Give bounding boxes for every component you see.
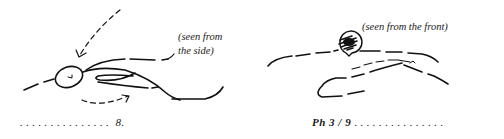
caption-side-view: (seen from the side) — [178, 30, 248, 58]
leader-dots: ............... — [354, 116, 446, 128]
caption-front-view: (seen from the front) — [362, 20, 448, 34]
leader-dots: ............... — [20, 116, 112, 128]
head-circle — [339, 31, 362, 56]
downward-arrow-icon — [80, 10, 120, 55]
figure-number: Ph 3 / 9 — [312, 116, 351, 128]
figure-number: 8. — [116, 116, 125, 128]
figure-front-view: (seen from the front) Ph 3 / 9 .........… — [252, 0, 504, 139]
caption-line-1: (seen from — [178, 30, 248, 44]
caption-line-2: the side) — [178, 44, 248, 58]
figure-number-side: ............... 8. — [20, 116, 125, 128]
rotation-arrow-icon — [82, 96, 128, 103]
figure-side-view: (seen from the side) ............... 8. — [0, 0, 252, 139]
figure-number-front: Ph 3 / 9 ............... — [312, 116, 447, 128]
